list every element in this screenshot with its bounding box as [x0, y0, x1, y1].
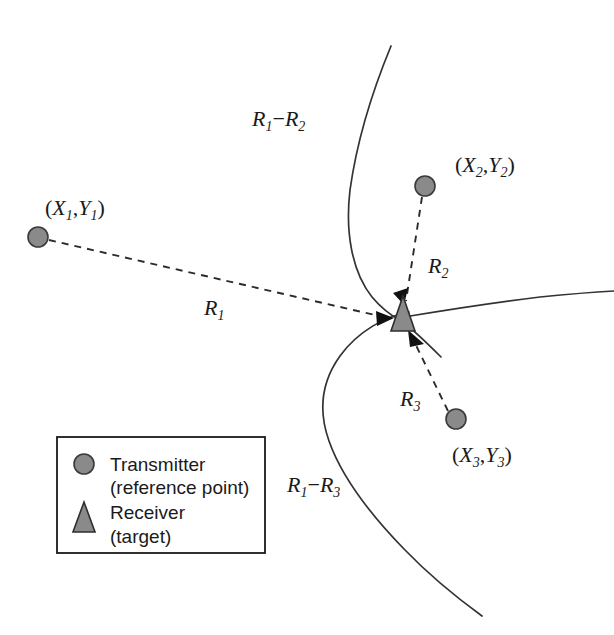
hyperbola-r1-minus-r2 [348, 46, 441, 357]
transmitter-1-label: (X1,Y1) [45, 195, 105, 223]
range-label-r1: R1 [203, 295, 224, 323]
transmitter-1-marker[interactable] [28, 227, 48, 247]
hyperbola-right-branch [404, 291, 614, 317]
legend-receiver-label-line2: (target) [110, 526, 171, 547]
legend-receiver-label-line1: Receiver [110, 502, 186, 523]
range-label-r3: R3 [399, 386, 420, 414]
transmitter-3-marker[interactable] [446, 409, 466, 429]
hyperbola-label-r1-minus-r3: R1−R3 [286, 472, 340, 500]
range-ray-r2 [406, 197, 422, 301]
range-rays [49, 197, 448, 411]
tdoa-diagram: (X1,Y1) (X2,Y2) (X3,Y3) R1 R2 R3 R [0, 0, 614, 635]
range-label-r2: R2 [427, 253, 448, 281]
hyperbola-label-r1-minus-r2: R1−R2 [251, 106, 305, 134]
range-ray-r1 [49, 240, 388, 318]
hyperbola-curves [323, 46, 614, 616]
transmitter-2-marker[interactable] [415, 176, 435, 196]
legend: Transmitter (reference point) Receiver (… [57, 437, 265, 553]
arrowhead-r1-icon [376, 311, 394, 326]
transmitter-2-label: (X2,Y2) [455, 152, 515, 180]
transmitter-3-label: (X3,Y3) [452, 442, 512, 470]
diagram-canvas: (X1,Y1) (X2,Y2) (X3,Y3) R1 R2 R3 R [0, 0, 614, 635]
legend-transmitter-label-line2: (reference point) [110, 477, 249, 498]
receiver-target-marker[interactable] [391, 296, 415, 331]
legend-transmitter-marker [74, 454, 94, 474]
legend-transmitter-label-line1: Transmitter [110, 454, 206, 475]
